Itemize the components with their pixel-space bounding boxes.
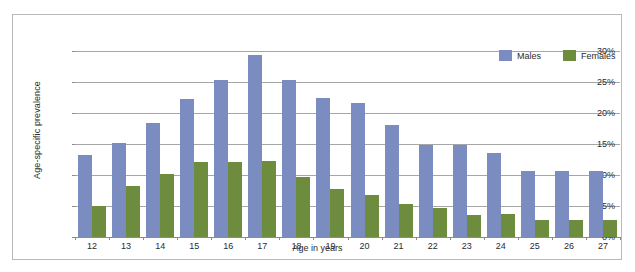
x-tick-mark	[348, 237, 349, 240]
bar-females-23	[467, 215, 481, 237]
bar-males-22	[419, 145, 433, 237]
x-tick-mark	[450, 237, 451, 240]
bar-males-20	[351, 103, 365, 237]
x-axis-title: Age in years	[0, 243, 635, 253]
bar-group	[75, 51, 109, 237]
bar-group	[245, 51, 279, 237]
bar-group	[143, 51, 177, 237]
x-tick-mark	[75, 237, 76, 240]
chart-legend: Males Females	[499, 50, 616, 61]
bar-females-18	[296, 177, 310, 237]
x-tick-mark	[518, 237, 519, 240]
x-tick-mark	[586, 237, 587, 240]
bar-group	[382, 51, 416, 237]
legend-item-females: Females	[563, 50, 616, 61]
x-tick-mark	[416, 237, 417, 240]
bar-group	[518, 51, 552, 237]
bar-group	[313, 51, 347, 237]
plot-area: 0%5%10%15%20%25%30% 12131415161718192021…	[75, 51, 620, 237]
x-tick-mark	[620, 237, 621, 240]
bar-group	[109, 51, 143, 237]
bar-males-18	[282, 80, 296, 237]
bar-group	[177, 51, 211, 237]
bar-males-26	[555, 171, 569, 237]
x-tick-mark	[143, 237, 144, 240]
legend-label-females: Females	[581, 51, 616, 61]
chart-screenshot: Age-specific prevalence 0%5%10%15%20%25%…	[0, 0, 635, 272]
bar-group	[211, 51, 245, 237]
bar-females-25	[535, 220, 549, 237]
bar-males-24	[487, 153, 501, 237]
bar-females-20	[365, 195, 379, 237]
x-tick-mark	[109, 237, 110, 240]
bar-group	[348, 51, 382, 237]
y-axis-title: Age-specific prevalence	[32, 55, 42, 205]
bar-males-15	[180, 99, 194, 237]
bar-females-26	[569, 220, 583, 237]
bar-females-16	[228, 162, 242, 237]
bar-group	[279, 51, 313, 237]
x-tick-mark	[552, 237, 553, 240]
bar-group	[416, 51, 450, 237]
bar-females-22	[433, 208, 447, 237]
bar-females-12	[92, 206, 106, 237]
x-tick-mark	[177, 237, 178, 240]
x-tick-mark	[211, 237, 212, 240]
bar-males-17	[248, 55, 262, 237]
x-tick-mark	[484, 237, 485, 240]
bar-group	[586, 51, 620, 237]
bar-females-17	[262, 161, 276, 237]
legend-item-males: Males	[499, 50, 541, 61]
bar-males-12	[78, 155, 92, 237]
bar-group	[552, 51, 586, 237]
bar-group	[450, 51, 484, 237]
bar-females-19	[330, 189, 344, 237]
legend-label-males: Males	[517, 51, 541, 61]
legend-swatch-females	[563, 50, 576, 61]
bar-females-15	[194, 162, 208, 237]
bar-males-27	[589, 171, 603, 237]
bar-females-27	[603, 220, 617, 237]
legend-swatch-males	[499, 50, 512, 61]
bar-males-21	[385, 125, 399, 237]
bar-males-13	[112, 143, 126, 237]
bar-group	[484, 51, 518, 237]
bar-females-13	[126, 186, 140, 237]
bar-males-14	[146, 123, 160, 237]
bar-females-24	[501, 214, 515, 237]
x-tick-mark	[313, 237, 314, 240]
x-tick-mark	[279, 237, 280, 240]
chart-frame: Age-specific prevalence 0%5%10%15%20%25%…	[12, 14, 622, 260]
bar-males-16	[214, 80, 228, 237]
x-tick-mark	[382, 237, 383, 240]
x-tick-mark	[245, 237, 246, 240]
bar-females-21	[399, 204, 413, 237]
bar-males-19	[316, 98, 330, 238]
bar-females-14	[160, 174, 174, 237]
bar-males-25	[521, 171, 535, 237]
bar-males-23	[453, 145, 467, 237]
